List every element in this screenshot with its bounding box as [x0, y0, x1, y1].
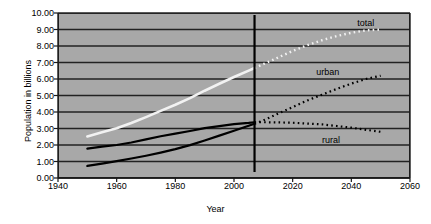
series-line-projection-rural	[255, 122, 381, 132]
series-label-urban: urban	[316, 68, 339, 77]
population-projection-chart: Population in billions 0.001.002.003.004…	[0, 0, 431, 224]
chart-vector-layer	[0, 0, 431, 224]
series-label-total: total	[357, 19, 374, 28]
series-line-projection-urban	[255, 76, 381, 124]
series-label-rural: rural	[322, 136, 340, 145]
